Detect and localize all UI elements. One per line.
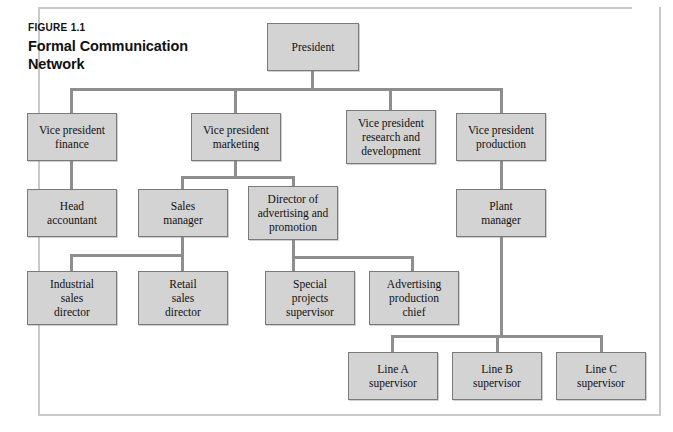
org-node-label: Vice presidentproduction [460,123,542,151]
connector-line-b-drop [496,335,499,353]
org-node-label: Advertisingproductionchief [373,277,455,319]
connector-special-projects-drop [292,256,295,272]
org-node-label: Headaccountant [31,199,113,227]
org-node-label: Vice presidentmarketing [195,123,277,151]
connector-vp-finance-to-head [70,161,73,189]
org-node-label: Industrialsalesdirector [31,277,113,319]
org-node-line-c[interactable]: Line Csupervisor [556,352,646,400]
org-node-director-advertising[interactable]: Director ofadvertising andpromotion [248,186,338,240]
connector-advertising-bus [292,256,413,259]
connector-president-stem [311,71,314,88]
connector-line-a-drop [391,335,394,353]
connector-line-c-drop [600,335,603,353]
org-node-label: Line Asupervisor [352,362,434,390]
org-node-label: Specialprojectssupervisor [269,277,351,319]
frame-rule-top [38,7,632,9]
org-node-label: Plantmanager [460,199,542,227]
org-node-special-projects[interactable]: Specialprojectssupervisor [265,271,355,325]
org-node-label: Director ofadvertising andpromotion [252,192,334,234]
org-node-industrial-sales[interactable]: Industrialsalesdirector [27,271,117,325]
connector-sales-manager-drop [181,176,184,189]
org-node-president[interactable]: President [267,23,359,71]
figure-title: Formal CommunicationNetwork [28,37,243,74]
org-node-line-a[interactable]: Line Asupervisor [348,352,438,400]
connector-vp-marketing-drop [234,88,237,113]
connector-retail-sales-drop [181,254,184,272]
org-node-label: Vice presidentresearch anddevelopment [350,116,432,158]
org-node-vp-finance[interactable]: Vice presidentfinance [27,113,117,161]
org-node-vp-marketing[interactable]: Vice presidentmarketing [191,113,281,161]
connector-plant-manager-stem [500,237,503,335]
org-node-label: Retailsalesdirector [142,277,224,319]
connector-vp-production-to-plant [500,161,503,189]
figure-container: FIGURE 1.1 Formal CommunicationNetwork P… [0,0,673,432]
figure-number: FIGURE 1.1 [28,22,243,35]
frame-rule-bottom [38,414,661,416]
org-node-label: President [271,40,355,54]
connector-sales-manager-stem [181,237,184,254]
org-node-label: Line Bsupervisor [456,362,538,390]
org-node-sales-manager[interactable]: Salesmanager [138,189,228,237]
org-node-label: Salesmanager [142,199,224,227]
org-node-advertising-production[interactable]: Advertisingproductionchief [369,271,459,325]
org-node-line-b[interactable]: Line Bsupervisor [452,352,542,400]
connector-president-bus [70,88,501,91]
org-node-label: Line Csupervisor [560,362,642,390]
org-node-label: Vice presidentfinance [31,123,113,151]
connector-vp-research-drop [389,88,392,110]
connector-advertising-prod-drop [411,256,414,272]
frame-rule-right [659,7,661,416]
connector-marketing-bus [181,176,293,179]
connector-vp-marketing-stem [234,161,237,176]
connector-director-adv-drop [292,176,295,186]
org-node-vp-research[interactable]: Vice presidentresearch anddevelopment [346,110,436,164]
connector-vp-production-drop [500,88,503,113]
org-node-vp-production[interactable]: Vice presidentproduction [456,113,546,161]
org-node-retail-sales[interactable]: Retailsalesdirector [138,271,228,325]
figure-caption: FIGURE 1.1 Formal CommunicationNetwork [28,22,243,74]
org-node-plant-manager[interactable]: Plantmanager [456,189,546,237]
connector-industrial-sales-drop [70,254,73,272]
connector-vp-finance-drop [70,88,73,113]
org-node-head-accountant[interactable]: Headaccountant [27,189,117,237]
connector-director-adv-stem [292,240,295,256]
connector-sales-bus [70,254,183,257]
